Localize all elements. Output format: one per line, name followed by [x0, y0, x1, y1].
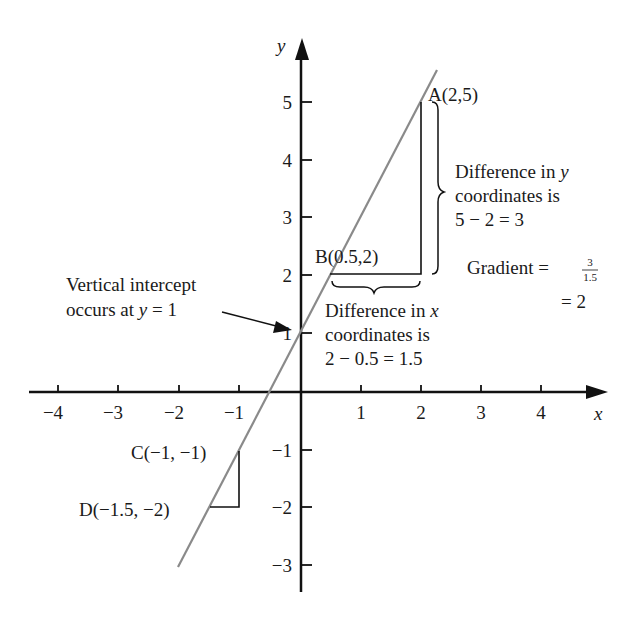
point-c-label: C(−1, −1) [131, 442, 206, 464]
x-ticks: −4−3−2−11234 [43, 385, 546, 423]
dx-text-line3: 2 − 0.5 = 1.5 [325, 348, 422, 369]
x-tick-label: −1 [224, 402, 244, 423]
point-a-label: A(2,5) [428, 84, 478, 106]
intercept-text-line2: occurs at y = 1 [66, 299, 177, 320]
dy-text-line2: coordinates is [455, 185, 560, 206]
y-axis: 54321−1−2−3 y [272, 35, 312, 592]
x-axis-label: x [593, 403, 603, 424]
gradient-diagram: −4−3−2−11234 x 54321−1−2−3 y A(2,5) B(0.… [0, 0, 641, 628]
point-d-label: D(−1.5, −2) [79, 499, 170, 521]
gradient-numerator: 3 [587, 256, 593, 268]
intercept-text-line1: Vertical intercept [66, 274, 197, 295]
intercept-arrow [222, 312, 280, 327]
dy-text-line3: 5 − 2 = 3 [455, 209, 524, 230]
x-tick-label: 4 [536, 402, 546, 423]
x-tick-label: 3 [476, 402, 486, 423]
y-tick-label: −1 [272, 440, 292, 461]
dy-text-line1: Difference in y [455, 161, 569, 182]
brace-dy-icon [432, 102, 444, 274]
x-tick-label: −4 [43, 402, 64, 423]
gradient-denominator: 1.5 [583, 271, 597, 283]
y-tick-label: 4 [283, 150, 293, 171]
y-tick-label: 5 [283, 92, 293, 113]
point-b-label: B(0.5,2) [315, 246, 378, 268]
gradient-result: = 2 [561, 291, 586, 312]
dx-text-line1: Difference in x [325, 300, 439, 321]
x-tick-label: −2 [164, 402, 184, 423]
x-axis: −4−3−2−11234 x [29, 385, 608, 424]
y-tick-label: 3 [283, 207, 293, 228]
y-tick-label: −2 [272, 497, 292, 518]
x-axis-arrow-icon [586, 385, 608, 399]
y-axis-arrow-icon [295, 38, 309, 60]
x-tick-label: −3 [103, 402, 123, 423]
y-ticks: 54321−1−2−3 [272, 92, 312, 576]
x-tick-label: 1 [356, 402, 366, 423]
x-tick-label: 2 [416, 402, 426, 423]
gradient-label: Gradient = [467, 257, 549, 278]
brace-dx-icon [332, 281, 420, 293]
y-tick-label: −3 [272, 555, 292, 576]
y-tick-label: 2 [283, 265, 293, 286]
y-axis-label: y [275, 35, 286, 56]
dx-text-line2: coordinates is [325, 324, 430, 345]
